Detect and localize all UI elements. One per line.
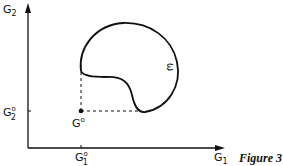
y-axis-arrow-icon [25, 3, 31, 13]
y-tick-label: Go2 [3, 105, 16, 122]
closed-region-curve [81, 23, 178, 112]
reference-point-label: Go [72, 116, 85, 130]
x-axis-label: G1 [214, 151, 228, 166]
figure-diagram: G2 G1 Go1 Go2 Go ω Figure 3 [0, 0, 283, 166]
x-tick-label: Go1 [75, 150, 88, 166]
figure-caption: Figure 3 [238, 151, 282, 165]
region-label: ω [165, 63, 176, 71]
reference-point-dot [79, 109, 84, 114]
y-axis-label: G2 [3, 3, 17, 18]
